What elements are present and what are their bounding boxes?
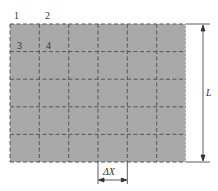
grid-svg: [0, 0, 218, 191]
cell-width-label: ΔX: [103, 167, 115, 177]
cell-label-1: 1: [14, 11, 19, 21]
height-label: L: [206, 88, 212, 98]
grid-diagram: 1 2 3 4 L ΔX: [0, 0, 218, 191]
cell-label-3: 3: [17, 41, 22, 51]
cell-label-2: 2: [45, 11, 50, 21]
cell-label-4: 4: [46, 41, 51, 51]
